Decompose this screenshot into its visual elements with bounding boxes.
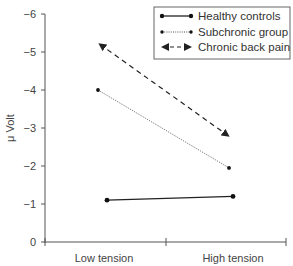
legend-label-chronic: Chronic back pain xyxy=(198,41,290,53)
y-tick-label: −5 xyxy=(23,46,36,58)
legend: Healthy controls Subchronic group Chroni… xyxy=(154,7,290,59)
dot-marker-icon xyxy=(160,30,163,33)
data-point xyxy=(96,88,100,92)
dot-marker-icon xyxy=(189,14,193,18)
y-tick-label: −1 xyxy=(23,198,36,210)
x-category-high: High tension xyxy=(202,252,263,264)
data-point xyxy=(231,194,236,199)
dot-marker-icon xyxy=(160,14,164,18)
data-point xyxy=(105,198,110,203)
y-tick-label: −4 xyxy=(23,84,36,96)
series-subchronic-group xyxy=(96,88,231,170)
dot-marker-icon xyxy=(189,30,192,33)
x-axis: Low tension High tension xyxy=(45,238,286,264)
y-axis-label: μ Volt xyxy=(4,114,16,142)
legend-label-healthy: Healthy controls xyxy=(198,10,281,22)
y-tick-label: −6 xyxy=(23,8,36,20)
line-chart: 0−1−2−3−4−5−6 Low tension High tension μ… xyxy=(0,0,293,266)
data-point xyxy=(227,166,231,170)
x-category-low: Low tension xyxy=(75,252,134,264)
y-tick-label: 0 xyxy=(30,236,36,248)
y-axis: 0−1−2−3−4−5−6 xyxy=(23,8,45,248)
legend-label-subchronic: Subchronic group xyxy=(198,26,288,38)
series-healthy-controls xyxy=(105,194,236,203)
y-tick-label: −3 xyxy=(23,122,36,134)
y-tick-label: −2 xyxy=(23,160,36,172)
series-layer xyxy=(96,44,235,202)
